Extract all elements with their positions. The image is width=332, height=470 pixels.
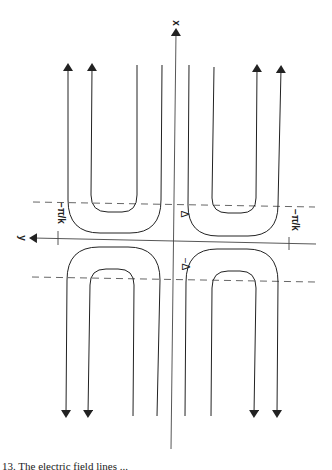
x-axis-label: x: [171, 20, 182, 26]
tick-label-right: −π/k: [290, 209, 301, 231]
field-lines-diagram: x y −π/k −π/k Δ −Δ: [0, 0, 332, 470]
figure-caption: 13. The electric field lines ...: [2, 458, 332, 470]
field-lines-upper-left: [68, 65, 162, 233]
y-axis-label: y: [17, 235, 28, 241]
field-lines-upper-right: [188, 65, 281, 236]
x-axis: x: [171, 20, 182, 449]
field-lines-lower-left: [66, 247, 160, 416]
tick-label-left: −π/k: [56, 202, 67, 224]
y-axis: y −π/k −π/k: [17, 202, 316, 250]
field-lines-lower-right: [185, 249, 278, 416]
